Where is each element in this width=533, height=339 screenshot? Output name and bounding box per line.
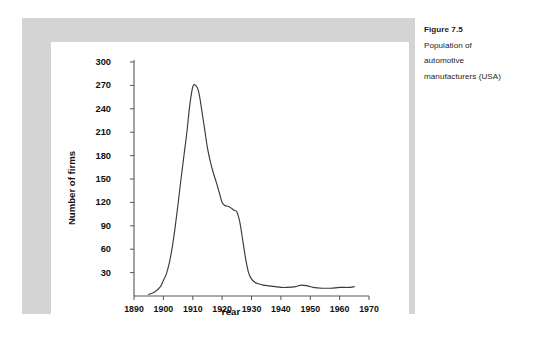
y-tick-marks — [130, 62, 134, 273]
y-tick-label: 60 — [81, 244, 111, 254]
y-tick-label: 180 — [81, 151, 111, 161]
y-axis-title: Number of firms — [66, 151, 77, 225]
figure-caption-line: automotive — [424, 53, 528, 69]
x-tick-marks — [134, 296, 369, 300]
y-tick-label: 210 — [81, 127, 111, 137]
figure-caption-title: Figure 7.5 — [424, 22, 528, 38]
line-chart: 300 270 240 210 180 150 120 90 60 30 — [51, 42, 409, 325]
figure-page: 300 270 240 210 180 150 120 90 60 30 — [0, 0, 533, 339]
figure-caption: Figure 7.5 Population of automotive manu… — [424, 22, 528, 84]
figure-caption-line: Population of — [424, 38, 528, 54]
figure-caption-line: manufacturers (USA) — [424, 69, 528, 85]
y-tick-label: 120 — [81, 197, 111, 207]
chart-card: 300 270 240 210 180 150 120 90 60 30 — [51, 42, 409, 325]
y-tick-label: 90 — [81, 221, 111, 231]
figure-panel: 300 270 240 210 180 150 120 90 60 30 — [22, 18, 415, 314]
y-tick-label: 300 — [81, 57, 111, 67]
data-series-line — [149, 85, 355, 295]
x-axis-title: Year — [51, 306, 409, 317]
y-tick-label: 30 — [81, 268, 111, 278]
y-tick-label: 240 — [81, 104, 111, 114]
y-tick-label: 150 — [81, 174, 111, 184]
y-tick-label: 270 — [81, 80, 111, 90]
